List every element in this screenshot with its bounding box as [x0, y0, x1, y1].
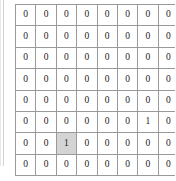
matrix-cell[interactable]: 0: [138, 26, 158, 47]
matrix-cell[interactable]: 0: [36, 26, 56, 47]
matrix-cell[interactable]: 0: [77, 47, 97, 68]
matrix-cell[interactable]: 0: [16, 111, 36, 132]
matrix-cell[interactable]: 0: [138, 5, 158, 26]
matrix-row: 00000000: [16, 47, 176, 68]
matrix-cell[interactable]: 0: [138, 69, 158, 90]
matrix-cell[interactable]: 0: [138, 90, 158, 111]
binary-matrix-table: 0000000000000000000000000000000000000000…: [15, 4, 175, 176]
matrix-cell[interactable]: 0: [158, 5, 175, 26]
matrix-cell[interactable]: 0: [117, 26, 137, 47]
adjacent-figure-rule-outer: [0, 0, 1, 166]
matrix-cell[interactable]: 0: [158, 111, 175, 132]
matrix-cell[interactable]: 0: [158, 26, 175, 47]
matrix-cell[interactable]: 0: [97, 111, 117, 132]
matrix-row: 00000010: [16, 111, 176, 132]
matrix-cell[interactable]: 0: [16, 47, 36, 68]
matrix-cell[interactable]: 0: [77, 69, 97, 90]
matrix-row: 00000000: [16, 5, 176, 26]
matrix-cell[interactable]: 0: [16, 26, 36, 47]
matrix-cell[interactable]: 0: [36, 111, 56, 132]
matrix-row: 00000000: [16, 69, 176, 90]
matrix-cell[interactable]: 0: [36, 5, 56, 26]
matrix-cell[interactable]: 0: [97, 5, 117, 26]
matrix-cell[interactable]: 0: [16, 133, 36, 154]
matrix-cell[interactable]: 0: [158, 47, 175, 68]
figure-caption: [0, 171, 175, 181]
matrix-cell[interactable]: 0: [36, 90, 56, 111]
matrix-row: 00100000: [16, 133, 176, 154]
matrix-cell[interactable]: 0: [36, 69, 56, 90]
matrix-cell[interactable]: 0: [36, 133, 56, 154]
matrix-cell[interactable]: 0: [138, 133, 158, 154]
matrix-cell[interactable]: 0: [117, 133, 137, 154]
matrix-cell[interactable]: 0: [97, 90, 117, 111]
matrix-cell[interactable]: 0: [36, 47, 56, 68]
matrix-cell[interactable]: 0: [158, 90, 175, 111]
matrix-cell[interactable]: 0: [117, 90, 137, 111]
matrix-cell[interactable]: 1: [138, 111, 158, 132]
matrix-cell[interactable]: 0: [56, 111, 76, 132]
matrix-cell[interactable]: 0: [16, 5, 36, 26]
matrix-cell[interactable]: 0: [77, 26, 97, 47]
matrix-cell[interactable]: 0: [97, 133, 117, 154]
matrix-row: 00000000: [16, 26, 176, 47]
matrix-cell[interactable]: 0: [16, 90, 36, 111]
matrix-cell[interactable]: 0: [138, 47, 158, 68]
matrix-row: 00000000: [16, 90, 176, 111]
matrix-cell[interactable]: 0: [16, 69, 36, 90]
matrix-cell[interactable]: 0: [56, 26, 76, 47]
matrix-cell[interactable]: 0: [77, 133, 97, 154]
matrix-cell[interactable]: 0: [56, 69, 76, 90]
adjacent-figure-rule: [3, 0, 4, 166]
matrix-cell[interactable]: 0: [158, 69, 175, 90]
matrix-cell[interactable]: 1: [56, 133, 76, 154]
matrix-cell[interactable]: 0: [117, 5, 137, 26]
matrix-cell[interactable]: 0: [117, 47, 137, 68]
matrix-cell[interactable]: 0: [56, 47, 76, 68]
binary-matrix-figure: 0000000000000000000000000000000000000000…: [15, 4, 170, 167]
matrix-cell[interactable]: 0: [77, 111, 97, 132]
matrix-cell[interactable]: 0: [77, 5, 97, 26]
matrix-cell[interactable]: 0: [97, 26, 117, 47]
matrix-cell[interactable]: 0: [97, 69, 117, 90]
matrix-cell[interactable]: 0: [97, 47, 117, 68]
matrix-cell[interactable]: 0: [56, 5, 76, 26]
matrix-cell[interactable]: 0: [117, 69, 137, 90]
matrix-cell[interactable]: 0: [158, 133, 175, 154]
matrix-cell[interactable]: 0: [117, 111, 137, 132]
matrix-cell[interactable]: 0: [56, 90, 76, 111]
matrix-cell[interactable]: 0: [77, 90, 97, 111]
binary-matrix-body: 0000000000000000000000000000000000000000…: [16, 5, 176, 176]
